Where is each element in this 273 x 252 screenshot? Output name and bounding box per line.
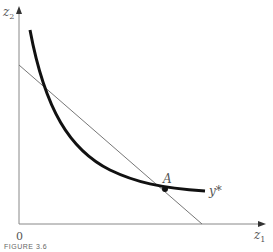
figure-caption: FIGURE 3.6 (4, 243, 47, 250)
point-a-label: A (163, 173, 172, 185)
origin-label: 0 (16, 230, 23, 243)
diagram-canvas (0, 0, 273, 252)
x-axis-label: z1 (254, 229, 265, 244)
y-axis-arrow-icon (16, 6, 22, 14)
isoquant-curve (30, 30, 205, 191)
curve-label: y* (209, 185, 222, 197)
point-a-marker (162, 186, 168, 192)
x-axis-arrow-icon (258, 221, 266, 227)
y-axis-label: z2 (3, 6, 14, 21)
